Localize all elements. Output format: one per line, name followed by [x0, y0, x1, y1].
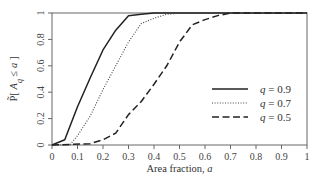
x-tick-label: 0.3 [122, 151, 135, 162]
y-ticks: 00.20.40.60.81 [35, 11, 52, 148]
y-tick-label: 0.2 [35, 112, 46, 125]
legend-label: q = 0.9 [260, 83, 291, 95]
x-axis-label: Area fraction, a [146, 163, 212, 174]
cdf-chart: 00.10.20.30.40.50.60.70.80.91 00.20.40.6… [0, 0, 322, 187]
x-tick-label: 0.9 [275, 151, 288, 162]
x-tick-label: 0.8 [250, 151, 263, 162]
y-tick-label: 0 [35, 143, 46, 148]
x-ticks: 00.10.20.30.40.50.60.70.80.91 [50, 145, 310, 162]
legend-label: q = 0.5 [260, 111, 291, 123]
x-tick-label: 0.2 [97, 151, 110, 162]
x-tick-label: 1 [305, 151, 310, 162]
series-group [52, 13, 307, 145]
x-tick-label: 0.5 [173, 151, 186, 162]
y-tick-label: 0.8 [35, 33, 46, 46]
legend-label: q = 0.7 [260, 97, 291, 109]
x-tick-label: 0.4 [148, 151, 161, 162]
series-line-solid [52, 13, 307, 145]
y-tick-label: 0.4 [35, 86, 46, 99]
y-tick-label: 1 [35, 11, 46, 16]
x-tick-label: 0.7 [224, 151, 237, 162]
y-tick-label: 0.6 [35, 60, 46, 73]
x-tick-label: 0.1 [71, 151, 84, 162]
legend: q = 0.9q = 0.7q = 0.5 [212, 83, 291, 123]
y-axis-label: P̃[ Aq ≤ a ] [7, 57, 24, 102]
x-tick-label: 0 [50, 151, 55, 162]
x-tick-label: 0.6 [199, 151, 212, 162]
